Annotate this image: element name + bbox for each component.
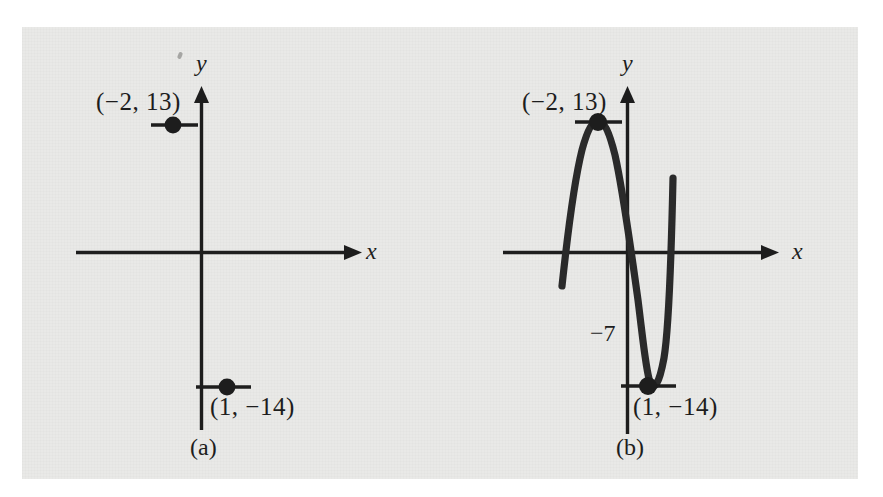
- panel-b-y-axis-label: y: [622, 50, 633, 77]
- panel-b-min-point-label: (1, −14): [633, 393, 718, 421]
- panel-b-x-axis: [503, 245, 779, 260]
- panel-b-max-point-label: (−2, 13): [522, 88, 607, 116]
- panel-b-caption: (b): [616, 434, 644, 461]
- panel-b: (−2, 13) (1, −14) −7 x y (b): [0, 0, 883, 497]
- panel-b-graphics: [0, 0, 883, 497]
- panel-b-x-axis-label: x: [792, 238, 803, 265]
- panel-b-y-intercept-label: −7: [590, 320, 616, 347]
- figure-root: (−2, 13) (1, −14) x y (a): [0, 0, 883, 497]
